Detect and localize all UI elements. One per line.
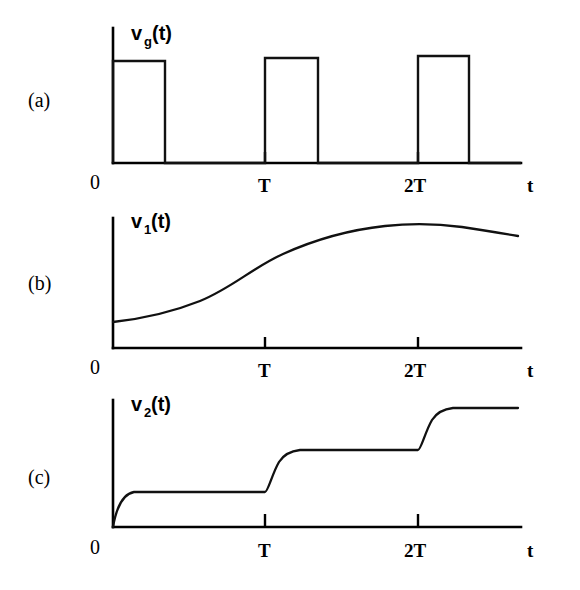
panel-c-xtick-label-T: T: [258, 540, 271, 561]
panel-c-x-axis-label: t: [527, 540, 534, 561]
panel-c-signal-label: v: [131, 393, 143, 415]
panel-c-signal-suffix: (t): [151, 393, 171, 415]
panel-a: (a) v g (t) 0 T 2T t: [0, 0, 580, 200]
panel-c-tag: (c): [28, 466, 50, 489]
panel-a-signal-label: v: [131, 22, 143, 44]
panel-b: (b) v 1 (t) 0 T 2T t: [0, 196, 580, 386]
panel-a-signal-suffix: (t): [152, 22, 172, 44]
panel-a-signal-subscript: g: [144, 34, 152, 49]
panel-c-origin-label: 0: [90, 536, 100, 558]
panel-b-signal-suffix: (t): [151, 210, 171, 232]
panel-a-x-axis-label: t: [527, 175, 534, 196]
panel-a-xtick-label-T: T: [258, 175, 271, 196]
panel-a-xtick-label-2T: 2T: [404, 175, 427, 196]
panel-c-xtick-label-2T: 2T: [404, 540, 427, 561]
panel-b-tag: (b): [28, 272, 51, 295]
panel-a-waveform: [113, 56, 521, 163]
panel-c-waveform: [113, 408, 518, 527]
panel-b-signal-label: v: [131, 210, 143, 232]
panel-b-xtick-label-T: T: [258, 360, 271, 381]
waveform-figure: (a) v g (t) 0 T 2T t (b) v 1 (t): [0, 0, 580, 590]
panel-b-waveform: [113, 224, 518, 322]
panel-b-x-axis-label: t: [527, 360, 534, 381]
panel-c: (c) v 2 (t) 0 T 2T t: [0, 382, 580, 590]
panel-b-origin-label: 0: [90, 356, 100, 378]
panel-a-tag: (a): [28, 89, 50, 112]
panel-a-origin-label: 0: [90, 171, 100, 193]
panel-b-xtick-label-2T: 2T: [404, 360, 427, 381]
